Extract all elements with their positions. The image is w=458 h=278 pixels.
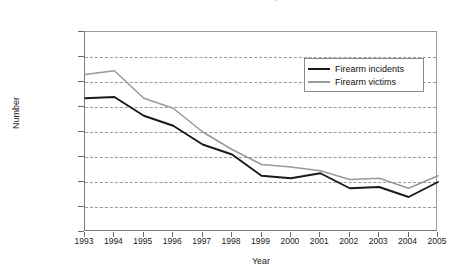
x-axis-tick-mark [319, 232, 320, 237]
legend-item-label: Firearm incidents [335, 64, 404, 74]
chart-title: Firearm incidents and firearm victims, 1… [140, 0, 318, 2]
x-axis-tick-mark [84, 232, 85, 237]
x-axis-tick-mark [231, 232, 232, 237]
x-axis-tick-mark [202, 232, 203, 237]
x-axis-tick-mark [437, 232, 438, 237]
chart-title-clipped: Firearm incidents and firearm victims, 1… [140, 0, 440, 5]
series-line-firearm-incidents [85, 97, 438, 197]
x-axis-tick-mark [378, 232, 379, 237]
firearm-trend-line-chart: Firearm incidents and firearm victims, 1… [0, 0, 458, 278]
legend-item-label: Firearm victims [335, 77, 396, 87]
x-axis-tick-label: 2005 [417, 236, 457, 246]
x-axis-tick-mark [290, 232, 291, 237]
y-axis-title: Number [11, 83, 21, 143]
chart-legend: Firearm incidentsFirearm victims [304, 58, 424, 92]
x-axis-title: Year [84, 256, 438, 266]
x-axis-tick-mark [143, 232, 144, 237]
x-axis-tick-mark [408, 232, 409, 237]
x-axis-tick-mark [261, 232, 262, 237]
x-axis-tick-mark [113, 232, 114, 237]
legend-item-firearm-incidents[interactable]: Firearm incidents [308, 62, 419, 75]
x-axis-tick-mark [172, 232, 173, 237]
legend-item-firearm-victims[interactable]: Firearm victims [308, 75, 419, 88]
legend-line-swatch [308, 68, 330, 70]
x-axis-tick-mark [349, 232, 350, 237]
legend-line-swatch [308, 81, 330, 83]
